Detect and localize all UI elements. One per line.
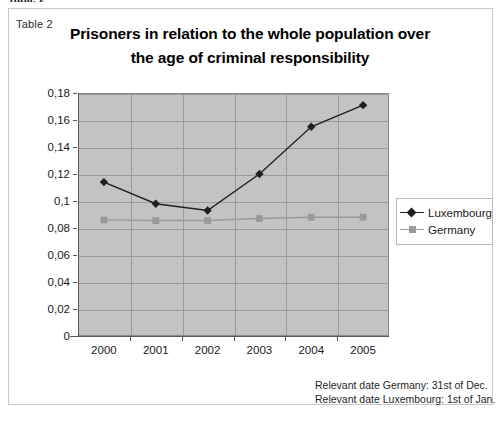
y-axis-tick-mark bbox=[73, 93, 77, 94]
series-layer bbox=[78, 93, 389, 336]
y-axis-tick-label: 0,1 bbox=[26, 195, 70, 207]
y-axis-tick-label: 0,16 bbox=[26, 114, 70, 126]
chart-legend: Luxembourg Germany bbox=[396, 198, 493, 245]
x-axis-tick-mark bbox=[130, 336, 131, 341]
data-point-germany bbox=[308, 214, 315, 221]
footnote-luxembourg: Relevant date Luxembourg: 1st of Jan. bbox=[315, 392, 495, 406]
y-axis-tick-label: 0,08 bbox=[26, 222, 70, 234]
x-axis-tick-label: 2005 bbox=[333, 344, 393, 356]
data-point-germany bbox=[152, 217, 159, 224]
chart-title-line-2: the age of criminal responsibility bbox=[55, 46, 445, 70]
y-axis-tick-label: 0,04 bbox=[26, 276, 70, 288]
y-axis-tick-mark bbox=[73, 255, 77, 256]
legend-item-luxembourg[interactable]: Luxembourg bbox=[397, 204, 492, 221]
y-axis-tick-mark bbox=[73, 120, 77, 121]
y-axis-tick-mark bbox=[73, 309, 77, 310]
data-point-germany bbox=[256, 215, 263, 222]
x-axis-tick-mark bbox=[337, 336, 338, 341]
data-point-luxembourg bbox=[203, 206, 211, 214]
y-axis-tick-mark bbox=[73, 201, 77, 202]
data-point-germany bbox=[360, 214, 367, 221]
y-axis-tick-label: 0,02 bbox=[26, 303, 70, 315]
diamond-marker-icon bbox=[400, 207, 424, 219]
legend-label-luxembourg: Luxembourg bbox=[424, 207, 492, 219]
x-axis-line bbox=[70, 336, 389, 337]
legend-item-germany[interactable]: Germany bbox=[397, 221, 492, 238]
data-point-luxembourg bbox=[152, 200, 160, 208]
chart-title: Prisoners in relation to the whole popul… bbox=[55, 22, 445, 70]
table-caption: Table 2 bbox=[16, 18, 53, 30]
x-axis-tick-mark bbox=[285, 336, 286, 341]
series-line-luxembourg bbox=[104, 105, 363, 210]
data-point-germany bbox=[101, 217, 108, 224]
y-axis-tick-label: 0,14 bbox=[26, 141, 70, 153]
x-axis-tick-mark bbox=[182, 336, 183, 341]
data-point-germany bbox=[204, 217, 211, 224]
y-axis-tick-label: 0,06 bbox=[26, 249, 70, 261]
y-axis-tick-mark bbox=[73, 228, 77, 229]
clipped-table-caption: Table 2 bbox=[8, 0, 45, 2]
footnote-germany: Relevant date Germany: 31st of Dec. bbox=[315, 378, 495, 392]
y-axis-tick-mark bbox=[73, 282, 77, 283]
series-line-germany bbox=[104, 217, 363, 220]
data-point-luxembourg bbox=[100, 178, 108, 186]
y-axis-tick-label: 0 bbox=[26, 330, 70, 342]
footnotes: Relevant date Germany: 31st of Dec. Rele… bbox=[315, 378, 495, 406]
legend-label-germany: Germany bbox=[424, 224, 475, 236]
y-axis-tick-label: 0,18 bbox=[26, 87, 70, 99]
y-axis-tick-mark bbox=[73, 174, 77, 175]
y-axis-tick-mark bbox=[73, 336, 77, 337]
square-marker-icon bbox=[400, 224, 424, 236]
chart-title-line-1: Prisoners in relation to the whole popul… bbox=[55, 22, 445, 46]
data-point-luxembourg bbox=[359, 101, 367, 109]
y-axis-tick-label: 0,12 bbox=[26, 168, 70, 180]
y-axis-tick-mark bbox=[73, 147, 77, 148]
x-axis-tick-mark bbox=[234, 336, 235, 341]
